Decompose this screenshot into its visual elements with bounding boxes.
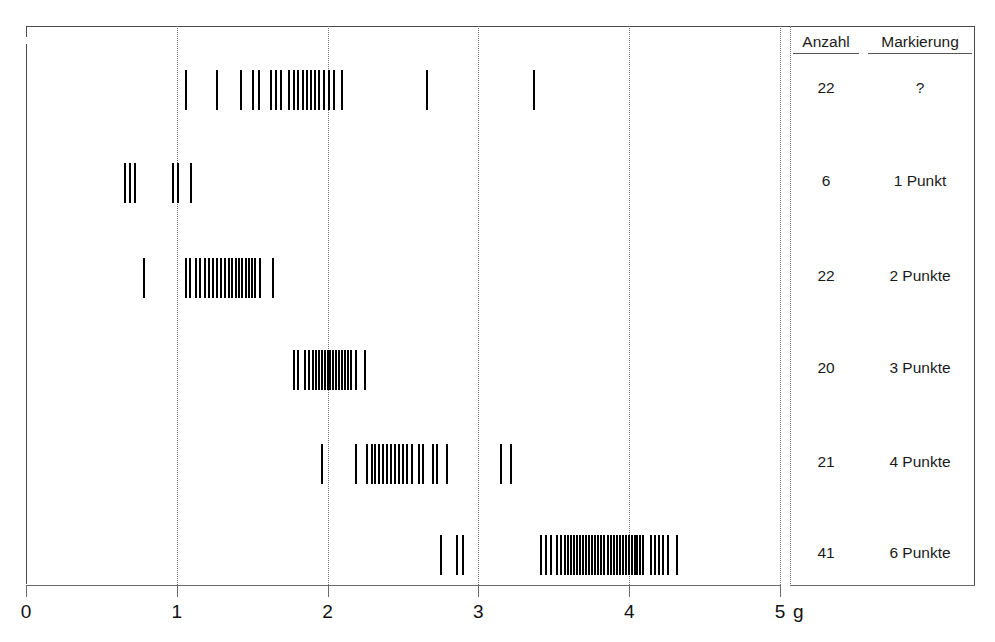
data-mark bbox=[235, 258, 237, 298]
data-mark bbox=[231, 258, 233, 298]
x-tick-1 bbox=[177, 585, 178, 597]
data-mark bbox=[364, 350, 366, 390]
data-mark bbox=[172, 163, 174, 203]
data-mark bbox=[208, 258, 210, 298]
data-mark bbox=[510, 444, 512, 484]
table-cell-anzahl: 21 bbox=[793, 453, 859, 471]
data-mark bbox=[321, 444, 323, 484]
data-mark bbox=[560, 535, 562, 575]
table-divider-line bbox=[790, 26, 791, 586]
data-mark bbox=[323, 70, 325, 110]
x-tick-4 bbox=[629, 585, 630, 597]
data-mark bbox=[631, 535, 633, 575]
data-mark bbox=[402, 444, 404, 484]
data-mark bbox=[667, 535, 669, 575]
table-cell-anzahl: 22 bbox=[793, 79, 859, 97]
data-mark bbox=[297, 70, 299, 110]
data-mark bbox=[328, 70, 330, 110]
data-mark bbox=[564, 535, 566, 575]
data-mark bbox=[650, 535, 652, 575]
x-tick-2 bbox=[328, 585, 329, 597]
data-mark bbox=[293, 70, 295, 110]
data-mark bbox=[220, 258, 222, 298]
data-mark bbox=[329, 350, 331, 390]
data-mark bbox=[628, 535, 630, 575]
x-tick-label-0: 0 bbox=[21, 601, 32, 623]
data-mark bbox=[190, 163, 192, 203]
table-header-markierung: Markierung bbox=[868, 33, 972, 54]
data-mark bbox=[341, 70, 343, 110]
data-mark bbox=[355, 350, 357, 390]
data-mark bbox=[440, 535, 442, 575]
table-cell-markierung: 3 Punkte bbox=[868, 359, 972, 377]
table-cell-anzahl: 41 bbox=[793, 544, 859, 562]
data-mark bbox=[366, 444, 368, 484]
x-tick-0 bbox=[26, 585, 27, 597]
data-mark bbox=[240, 70, 242, 110]
data-mark bbox=[314, 70, 316, 110]
table-header-anzahl: Anzahl bbox=[793, 33, 859, 54]
data-mark bbox=[639, 535, 641, 575]
plot-frame-left-stub bbox=[26, 26, 27, 37]
strip-row bbox=[0, 350, 790, 390]
table-cell-markierung: ? bbox=[868, 79, 972, 97]
data-mark bbox=[318, 70, 320, 110]
table-cell-markierung: 2 Punkte bbox=[868, 267, 972, 285]
data-mark bbox=[258, 70, 260, 110]
data-mark bbox=[252, 70, 254, 110]
table-cell-anzahl: 6 bbox=[793, 172, 859, 190]
x-axis-line bbox=[26, 585, 780, 586]
data-mark bbox=[241, 258, 243, 298]
data-mark bbox=[636, 535, 638, 575]
data-mark bbox=[315, 350, 317, 390]
data-mark bbox=[658, 535, 660, 575]
data-mark bbox=[185, 70, 187, 110]
table-cell-anzahl: 20 bbox=[793, 359, 859, 377]
data-mark bbox=[310, 70, 312, 110]
data-mark bbox=[432, 444, 434, 484]
data-mark bbox=[616, 535, 618, 575]
table-cell-markierung: 6 Punkte bbox=[868, 544, 972, 562]
data-mark bbox=[332, 350, 334, 390]
data-mark bbox=[245, 258, 247, 298]
data-mark bbox=[594, 535, 596, 575]
data-mark bbox=[302, 70, 304, 110]
data-mark bbox=[603, 535, 605, 575]
data-mark bbox=[306, 70, 308, 110]
data-mark bbox=[622, 535, 624, 575]
data-mark bbox=[189, 258, 191, 298]
data-mark bbox=[582, 535, 584, 575]
data-mark bbox=[341, 350, 343, 390]
data-mark bbox=[238, 258, 240, 298]
data-mark bbox=[272, 258, 274, 298]
data-mark bbox=[347, 350, 349, 390]
data-mark bbox=[177, 163, 179, 203]
data-mark bbox=[254, 258, 256, 298]
x-tick-3 bbox=[478, 585, 479, 597]
table-cell-anzahl: 22 bbox=[793, 267, 859, 285]
strip-row bbox=[0, 163, 790, 203]
data-mark bbox=[390, 444, 392, 484]
data-mark bbox=[625, 535, 627, 575]
data-mark bbox=[570, 535, 572, 575]
data-mark bbox=[382, 444, 384, 484]
x-tick-label-1: 1 bbox=[172, 601, 183, 623]
data-mark bbox=[321, 350, 323, 390]
data-mark bbox=[270, 70, 272, 110]
plot-frame-right bbox=[974, 26, 975, 586]
data-mark bbox=[456, 535, 458, 575]
data-mark bbox=[324, 350, 326, 390]
data-mark bbox=[573, 535, 575, 575]
data-mark bbox=[338, 350, 340, 390]
data-mark bbox=[607, 535, 609, 575]
data-mark bbox=[406, 444, 408, 484]
plot-frame-top bbox=[26, 26, 975, 27]
data-mark bbox=[398, 444, 400, 484]
data-mark bbox=[540, 535, 542, 575]
data-mark bbox=[355, 444, 357, 484]
data-mark bbox=[344, 350, 346, 390]
data-mark bbox=[446, 444, 448, 484]
data-mark bbox=[600, 535, 602, 575]
data-mark bbox=[288, 70, 290, 110]
data-mark bbox=[199, 258, 201, 298]
